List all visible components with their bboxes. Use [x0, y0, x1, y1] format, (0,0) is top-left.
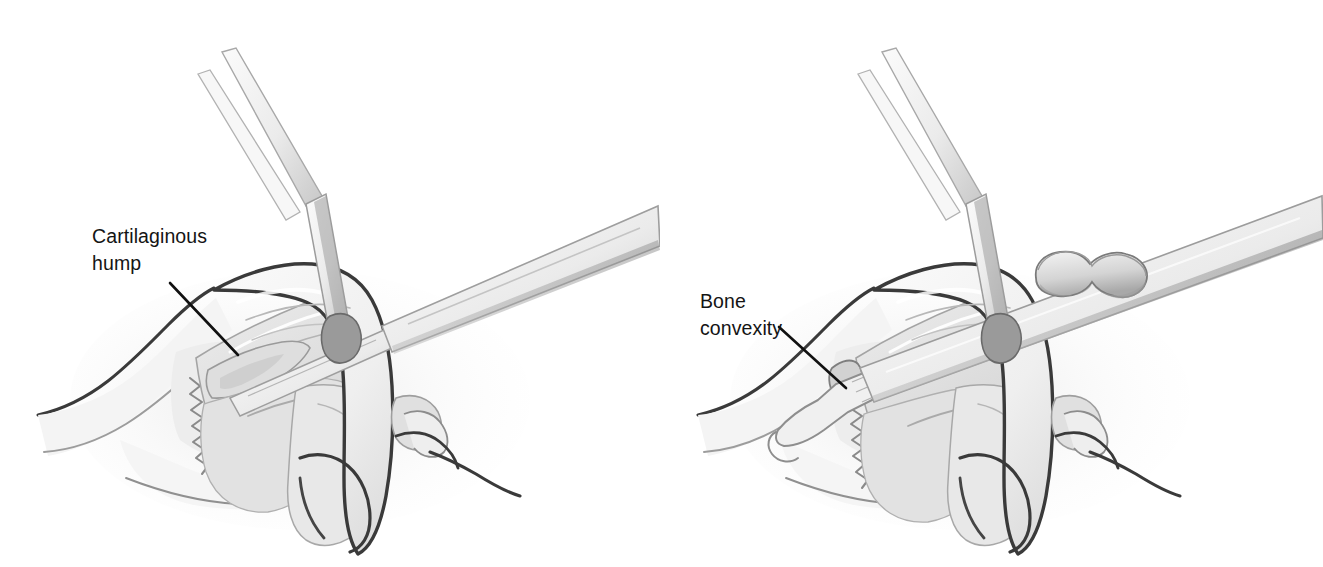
label-line-1: Cartilaginous [92, 225, 207, 247]
retractor-tip-hook [981, 314, 1021, 363]
bone-convexity-panel: Bone convexity [660, 0, 1323, 567]
retractor-tip-hook [321, 314, 361, 363]
label-line-2: hump [92, 252, 141, 274]
figure-root: Cartilaginous hump [0, 0, 1323, 567]
cartilaginous-hump-panel: Cartilaginous hump [0, 0, 660, 567]
label-line-2: convexity [700, 317, 782, 339]
scalpel-handle-shaft [382, 206, 660, 352]
scalpel-handle-groove [408, 228, 640, 324]
label-line-1: Bone [700, 290, 746, 312]
